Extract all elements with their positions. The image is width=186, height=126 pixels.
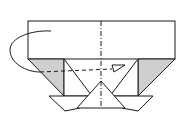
left-white-flap — [64, 59, 92, 96]
origami-diagram: Fold the left half behind along the cent… — [0, 0, 186, 126]
fold-diagram-svg — [0, 0, 186, 126]
arrowhead-icon — [112, 65, 125, 72]
left-shaded-flap — [28, 59, 64, 96]
right-shaded-flap — [138, 59, 175, 96]
